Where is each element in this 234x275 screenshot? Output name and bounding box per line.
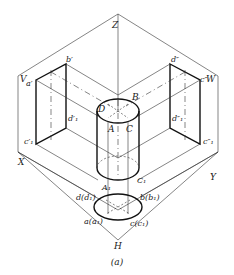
figure-caption: (a)	[0, 257, 234, 267]
label-d1-dprime: d″₁	[172, 114, 183, 123]
v-axis-centerline	[51, 72, 110, 106]
label-w-plane: W	[206, 74, 216, 84]
w-proj-line-top-front	[138, 80, 200, 116]
label-a-prime: a′	[26, 79, 33, 88]
label-c-dprime: c″	[200, 75, 207, 84]
x-axis-line	[18, 152, 96, 197]
label-D: D	[97, 104, 105, 114]
w-proj-line-top-back	[118, 64, 170, 95]
v-proj-line-bottom-front	[36, 144, 98, 180]
label-c-c1: c(c₁)	[130, 219, 148, 228]
label-C: C	[126, 124, 133, 134]
label-x-axis: X	[17, 157, 25, 167]
label-b-b1: b(b₁)	[140, 193, 160, 202]
label-d1-prime: d′₁	[68, 114, 78, 123]
label-d-d1: d(d₁)	[76, 193, 96, 202]
y-axis-line	[140, 152, 218, 197]
label-d-dprime: d″	[171, 55, 179, 64]
label-A1: A₁	[101, 183, 111, 192]
label-A: A	[107, 124, 115, 134]
cylinder-projection-diagram: Z V W X Y H a′ b′ d′₁ c′₁ d″ c″ d″₁ c″₁ …	[0, 0, 234, 275]
label-C1: C₁	[137, 176, 146, 185]
label-y-axis: Y	[210, 172, 217, 182]
label-a-a1: a(a₁)	[84, 217, 103, 226]
label-c1-prime: c′₁	[24, 137, 34, 146]
label-c1-dprime: c″₁	[203, 137, 214, 146]
label-b-prime: b′	[66, 55, 73, 64]
label-z-axis: Z	[111, 20, 119, 30]
label-B: B	[131, 92, 139, 102]
w-proj-line-bottom-front	[138, 144, 200, 180]
v-proj-line-top-back	[66, 64, 118, 95]
v-proj-line-top-front	[36, 80, 98, 116]
label-h-plane: H	[113, 241, 122, 251]
labels: Z V W X Y H a′ b′ d′₁ c′₁ d″ c″ d″₁ c″₁ …	[17, 20, 217, 251]
